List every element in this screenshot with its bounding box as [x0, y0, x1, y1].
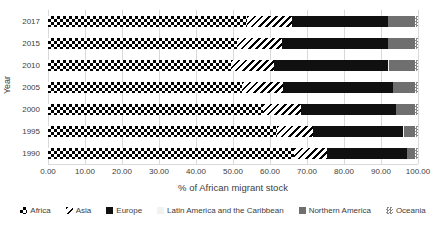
- segment-europe: [282, 38, 388, 49]
- stacked-bar-2005: [48, 82, 418, 93]
- segment-oceania: [415, 148, 418, 159]
- x-tick-label-100.00: 100.00: [406, 167, 430, 176]
- segment-asia: [237, 38, 282, 49]
- legend-item-latin-america-and-the-caribbean: Latin America and the Caribbean: [157, 206, 284, 215]
- segment-europe: [301, 104, 395, 115]
- segment-africa: [48, 126, 277, 137]
- legend-swatch-icon: [386, 207, 393, 214]
- legend-label: Northern America: [309, 206, 371, 215]
- legend-label: Latin America and the Caribbean: [167, 206, 284, 215]
- x-axis-title: % of African migrant stock: [48, 182, 418, 193]
- legend-swatch-icon: [66, 207, 73, 214]
- legend-item-oceania: Oceania: [386, 206, 426, 215]
- legend-item-northern-america: Northern America: [299, 206, 371, 215]
- segment-asia: [242, 82, 283, 93]
- segment-europe: [327, 148, 407, 159]
- legend: AfricaAsiaEuropeLatin America and the Ca…: [0, 202, 446, 218]
- legend-label: Europe: [116, 206, 142, 215]
- legend-swatch-icon: [20, 207, 27, 214]
- bar-row-2000: [48, 98, 418, 120]
- gridline: [418, 10, 419, 164]
- segment-asia: [263, 104, 302, 115]
- stacked-bar-2000: [48, 104, 418, 115]
- segment-asia: [294, 148, 327, 159]
- stacked-bar-2015: [48, 38, 418, 49]
- y-tick-label-2005: 2005: [22, 83, 40, 92]
- bar-row-1990: [48, 142, 418, 164]
- stacked-bar-2017: [48, 16, 418, 27]
- segment-northern-america: [389, 60, 416, 71]
- legend-swatch-icon: [106, 207, 113, 214]
- bar-row-1995: [48, 120, 418, 142]
- y-tick-label-2010: 2010: [22, 61, 40, 70]
- stacked-bar-chart: Year 2017201520102005200019951990 0.0010…: [0, 0, 446, 228]
- segment-oceania: [415, 38, 418, 49]
- segment-northern-america: [388, 16, 415, 27]
- segment-africa: [48, 148, 294, 159]
- segment-northern-america: [393, 82, 415, 93]
- x-tick-label-40.00: 40.00: [186, 167, 206, 176]
- x-tick-label-10.00: 10.00: [75, 167, 95, 176]
- legend-label: Oceania: [396, 206, 426, 215]
- x-tick-label-60.00: 60.00: [260, 167, 280, 176]
- segment-europe: [283, 82, 393, 93]
- bar-row-2010: [48, 54, 418, 76]
- legend-item-asia: Asia: [66, 206, 92, 215]
- segment-africa: [48, 104, 263, 115]
- bar-row-2017: [48, 10, 418, 32]
- x-tick-label-50.00: 50.00: [223, 167, 243, 176]
- segment-africa: [48, 38, 237, 49]
- segment-oceania: [415, 16, 418, 27]
- bars-container: [48, 10, 418, 164]
- y-tick-labels: 2017201520102005200019951990: [0, 10, 44, 164]
- segment-asia: [277, 126, 313, 137]
- x-tick-label-70.00: 70.00: [297, 167, 317, 176]
- y-tick-label-1990: 1990: [22, 149, 40, 158]
- segment-africa: [48, 82, 242, 93]
- legend-label: Africa: [30, 206, 50, 215]
- x-tick-label-80.00: 80.00: [334, 167, 354, 176]
- legend-swatch-icon: [157, 207, 164, 214]
- segment-africa: [48, 60, 231, 71]
- segment-oceania: [415, 82, 418, 93]
- stacked-bar-2010: [48, 60, 418, 71]
- bar-row-2005: [48, 76, 418, 98]
- stacked-bar-1990: [48, 148, 418, 159]
- segment-europe: [313, 126, 403, 137]
- legend-item-africa: Africa: [20, 206, 50, 215]
- x-tick-labels: 0.0010.0020.0030.0040.0050.0060.0070.008…: [48, 167, 418, 179]
- segment-oceania: [415, 104, 418, 115]
- segment-oceania: [415, 60, 418, 71]
- segment-asia: [247, 16, 292, 27]
- x-tick-label-90.00: 90.00: [371, 167, 391, 176]
- stacked-bar-1995: [48, 126, 418, 137]
- legend-swatch-icon: [299, 207, 306, 214]
- segment-northern-america: [396, 104, 415, 115]
- legend-label: Asia: [76, 206, 92, 215]
- segment-europe: [292, 16, 388, 27]
- segment-northern-america: [404, 126, 416, 137]
- segment-northern-america: [388, 38, 415, 49]
- x-tick-label-20.00: 20.00: [112, 167, 132, 176]
- x-tick-label-0.00: 0.00: [40, 167, 56, 176]
- segment-oceania: [415, 126, 418, 137]
- bar-row-2015: [48, 32, 418, 54]
- plot-area: [48, 10, 418, 165]
- y-tick-label-1995: 1995: [22, 127, 40, 136]
- y-tick-label-2017: 2017: [22, 17, 40, 26]
- y-tick-label-2000: 2000: [22, 105, 40, 114]
- segment-africa: [48, 16, 247, 27]
- segment-asia: [231, 60, 274, 71]
- segment-northern-america: [407, 148, 415, 159]
- segment-europe: [274, 60, 389, 71]
- y-tick-label-2015: 2015: [22, 39, 40, 48]
- x-tick-label-30.00: 30.00: [149, 167, 169, 176]
- legend-item-europe: Europe: [106, 206, 142, 215]
